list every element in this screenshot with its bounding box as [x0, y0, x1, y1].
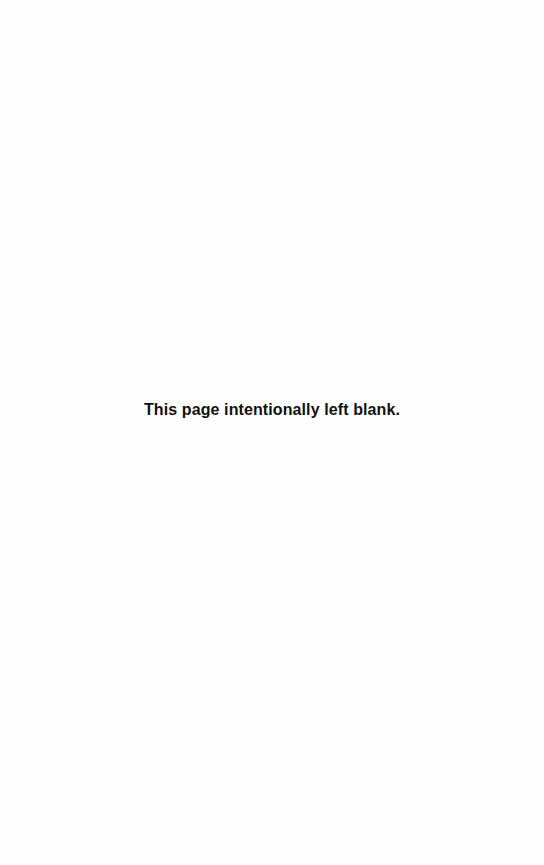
blank-page-notice: This page intentionally left blank. — [0, 399, 544, 421]
blank-page: This page intentionally left blank. — [0, 0, 544, 865]
